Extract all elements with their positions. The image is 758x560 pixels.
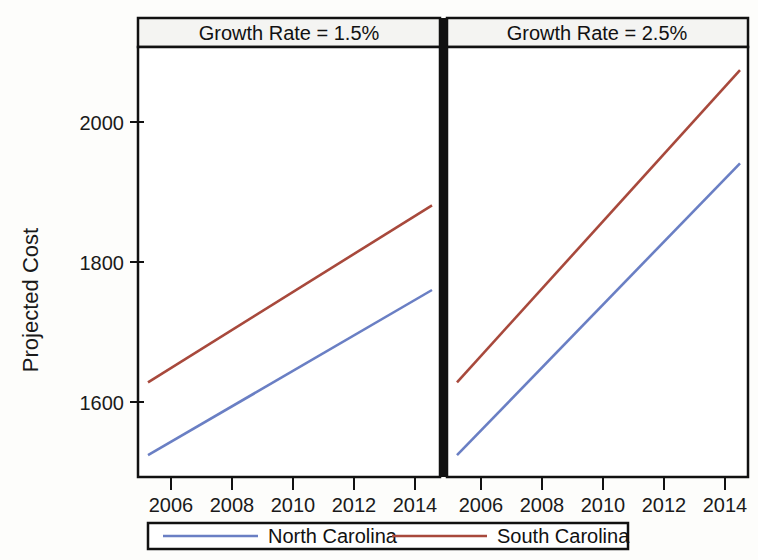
y-tick-label-2000: 2000: [80, 112, 125, 134]
x-tick-label-left-2014: 2014: [393, 494, 438, 516]
panel-left-plot-frame: [138, 47, 440, 477]
x-tick-label-left-2006: 2006: [149, 494, 194, 516]
y-tick-label-1800: 1800: [80, 252, 125, 274]
x-tick-label-right-2010: 2010: [581, 494, 626, 516]
x-tick-label-right-2012: 2012: [642, 494, 687, 516]
panel-right-strip-label: Growth Rate = 2.5%: [507, 22, 688, 44]
legend-label-north-carolina: North Carolina: [268, 525, 398, 547]
x-tick-label-right-2008: 2008: [520, 494, 565, 516]
y-tick-label-1600: 1600: [80, 392, 125, 414]
x-tick-label-left-2008: 2008: [210, 494, 255, 516]
chart-figure: Growth Rate = 1.5% 2000 1800 1600 Projec…: [0, 0, 758, 560]
x-tick-label-left-2012: 2012: [332, 494, 377, 516]
x-tick-label-right-2006: 2006: [459, 494, 504, 516]
x-tick-label-right-2014: 2014: [703, 494, 748, 516]
legend-label-south-carolina: South Carolina: [497, 525, 630, 547]
x-tick-label-left-2010: 2010: [271, 494, 316, 516]
chart-svg: Growth Rate = 1.5% 2000 1800 1600 Projec…: [0, 0, 758, 560]
y-axis-title: Projected Cost: [18, 228, 43, 372]
panel-left-strip-label: Growth Rate = 1.5%: [199, 22, 380, 44]
